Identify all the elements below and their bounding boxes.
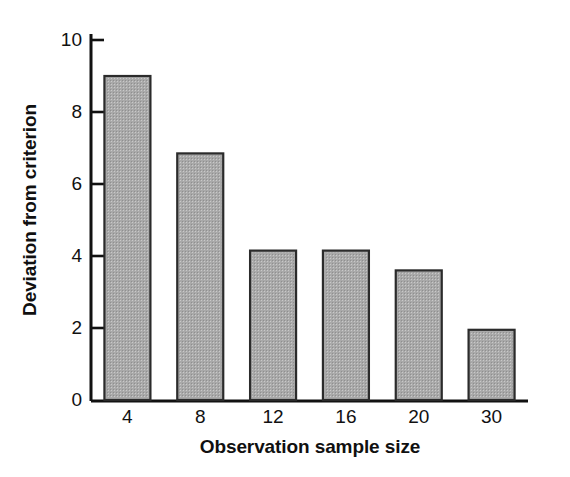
bar-texture — [179, 155, 221, 398]
bar-texture — [106, 78, 148, 398]
y-axis-tick-marks — [91, 40, 104, 328]
x-axis-tick-label: 30 — [457, 406, 527, 428]
x-axis-tick-label: 12 — [238, 406, 308, 428]
x-axis-title: Observation sample size — [90, 436, 530, 458]
bar-texture — [325, 253, 367, 398]
x-axis-tick-label: 16 — [311, 406, 381, 428]
bar-texture — [252, 253, 294, 398]
bar-texture — [398, 272, 440, 398]
bar-chart-figure: Deviation from criterion 0246810 4812162… — [0, 0, 570, 477]
bars-group — [104, 76, 514, 400]
bar-texture — [471, 332, 513, 398]
x-axis-tick-label: 8 — [165, 406, 235, 428]
x-axis-tick-label: 4 — [92, 406, 162, 428]
x-axis-tick-label: 20 — [384, 406, 454, 428]
